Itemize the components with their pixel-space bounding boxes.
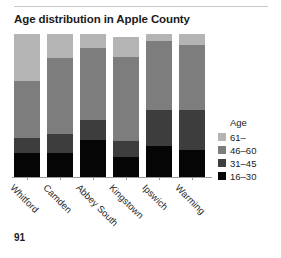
x-axis-label-ipswich: Ipswich [140,182,170,212]
bar-segment[interactable] [179,34,205,45]
plot-area [14,34,210,177]
bar-segment[interactable] [80,140,106,177]
legend-label: 61– [230,132,246,143]
bar-segment[interactable] [47,34,73,58]
legend-items: 61–46–6031–4516–30 [218,131,278,182]
bar-segment[interactable] [146,110,172,146]
legend-label: 46–60 [230,145,256,156]
bar-segment[interactable] [179,45,205,109]
x-axis-label-camden: Camden [41,182,74,215]
bar-segment[interactable] [113,37,139,57]
bar-column[interactable] [179,34,205,177]
chart-figure: Age distribution in Apple County Whitfor… [0,0,281,258]
bar-segment[interactable] [80,34,106,48]
legend-swatch [218,159,226,167]
legend-title: Age [230,117,278,128]
legend: Age 61–46–6031–4516–30 [218,117,278,183]
bar-segment[interactable] [14,81,40,138]
bar-segment[interactable] [47,153,73,177]
x-axis-tick [60,177,61,180]
legend-swatch [218,172,226,180]
bar-segment[interactable] [80,120,106,140]
x-axis-tick [27,177,28,180]
bar-segment[interactable] [14,138,40,152]
bar-segment[interactable] [146,34,172,41]
bar-column[interactable] [113,37,139,177]
bar-segment[interactable] [80,48,106,120]
legend-item[interactable]: 46–60 [218,144,278,156]
x-axis-label-whitford: Whitford [8,182,41,215]
bar-column[interactable] [80,34,106,177]
x-axis-tick [192,177,193,180]
bar-segment[interactable] [47,134,73,153]
legend-item[interactable]: 61– [218,131,278,143]
legend-swatch [218,146,226,154]
header-divider [14,6,268,7]
bar-segment[interactable] [113,157,139,177]
x-axis-tick [159,177,160,180]
bar-column[interactable] [14,34,40,177]
bar-segment[interactable] [146,41,172,110]
bar-segment[interactable] [113,57,139,141]
x-axis-label-warming: Warming [173,182,207,216]
bar-segment[interactable] [146,146,172,177]
legend-item[interactable]: 16–30 [218,170,278,182]
x-axis-tick [126,177,127,180]
chart-title: Age distribution in Apple County [14,12,264,26]
bar-column[interactable] [47,34,73,177]
bar-segment[interactable] [14,34,40,81]
x-axis-tick [93,177,94,180]
legend-item[interactable]: 31–45 [218,157,278,169]
x-axis-line [12,177,212,178]
page-number: 91 [14,232,25,243]
bar-segment[interactable] [179,110,205,150]
legend-label: 31–45 [230,158,256,169]
bar-column[interactable] [146,34,172,177]
bar-segment[interactable] [179,150,205,177]
bar-segment[interactable] [113,141,139,158]
legend-swatch [218,133,226,141]
bar-segment[interactable] [14,153,40,177]
bar-segment[interactable] [47,58,73,134]
legend-label: 16–30 [230,171,256,182]
